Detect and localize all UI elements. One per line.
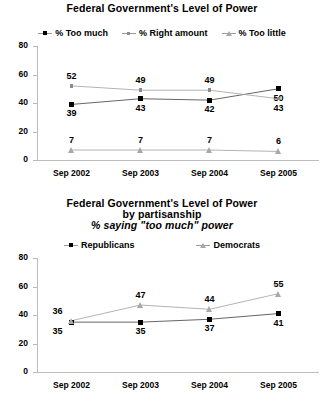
data-point <box>137 147 143 153</box>
data-point <box>68 147 74 153</box>
chart1-title: Federal Government's Level of Power <box>0 3 324 15</box>
x-axis-tick-label: Sep 2004 <box>183 168 237 178</box>
data-point <box>208 88 212 92</box>
chart-federal-power-partisanship: Federal Government's Level of Power by p… <box>0 196 324 407</box>
legend-item-too-little[interactable]: % Too little <box>222 28 286 38</box>
data-point <box>137 302 143 308</box>
data-point <box>207 98 212 103</box>
data-point <box>206 306 212 312</box>
data-point <box>276 86 281 91</box>
legend-label: % Too little <box>239 28 286 38</box>
square-black-marker-icon <box>38 29 52 38</box>
data-point <box>69 102 74 107</box>
data-point <box>207 317 212 322</box>
data-point <box>138 96 143 101</box>
legend-label: Democrats <box>213 240 260 250</box>
data-label: 37 <box>197 323 223 333</box>
data-label: 49 <box>197 75 223 85</box>
square-black-marker-icon <box>64 241 78 250</box>
data-point <box>206 147 212 153</box>
data-label: 39 <box>59 108 85 118</box>
x-axis-tick-label: Sep 2002 <box>45 380 99 390</box>
x-axis-tick-label: Sep 2004 <box>183 380 237 390</box>
chart2-plot-area: 0204060803535374136474455Sep 2002Sep 200… <box>0 254 324 404</box>
dot-gray-marker-icon <box>122 29 136 38</box>
data-label: 35 <box>45 326 71 336</box>
data-point <box>275 291 281 297</box>
legend-item-too-much[interactable]: % Too much <box>38 28 108 38</box>
data-label: 44 <box>197 294 223 304</box>
data-label: 43 <box>128 103 154 113</box>
triangle-gray-marker-icon <box>196 241 210 250</box>
legend-item-republicans[interactable]: Republicans <box>64 240 135 250</box>
data-point <box>70 84 74 88</box>
x-axis-tick-label: Sep 2002 <box>45 168 99 178</box>
data-label: 43 <box>266 103 292 113</box>
chart1-legend: % Too much% Right amount% Too little <box>0 28 324 38</box>
x-axis-tick-label: Sep 2003 <box>114 380 168 390</box>
chart2-legend: RepublicansDemocrats <box>0 240 324 250</box>
data-label: 6 <box>266 136 292 146</box>
legend-label: % Right amount <box>139 28 208 38</box>
data-label: 55 <box>266 279 292 289</box>
data-point <box>277 97 281 101</box>
data-point <box>276 311 281 316</box>
legend-label: Republicans <box>81 240 135 250</box>
chart1-plot-area: 02040608039434250524949437776Sep 2002Sep… <box>0 42 324 196</box>
data-point <box>68 318 74 324</box>
data-label: 42 <box>197 104 223 114</box>
data-label: 36 <box>45 306 71 316</box>
triangle-gray-marker-icon <box>222 29 236 38</box>
data-label: 41 <box>266 318 292 328</box>
legend-item-democrats[interactable]: Democrats <box>196 240 260 250</box>
legend-label: % Too much <box>55 28 108 38</box>
data-point <box>139 88 143 92</box>
data-label: 52 <box>59 71 85 81</box>
x-axis-tick-label: Sep 2003 <box>114 168 168 178</box>
data-label: 7 <box>59 135 85 145</box>
data-label: 49 <box>128 75 154 85</box>
legend-item-right-amount[interactable]: % Right amount <box>122 28 208 38</box>
chart-federal-power-overall: Federal Government's Level of Power % To… <box>0 0 324 196</box>
chart2-title-line3: % saying "too much" power <box>0 220 324 232</box>
x-axis-tick-label: Sep 2005 <box>252 380 306 390</box>
data-point <box>275 148 281 154</box>
data-point <box>138 320 143 325</box>
data-label: 35 <box>128 326 154 336</box>
data-label: 47 <box>128 290 154 300</box>
data-label: 7 <box>197 135 223 145</box>
x-axis-tick-label: Sep 2005 <box>252 168 306 178</box>
data-label: 7 <box>128 135 154 145</box>
